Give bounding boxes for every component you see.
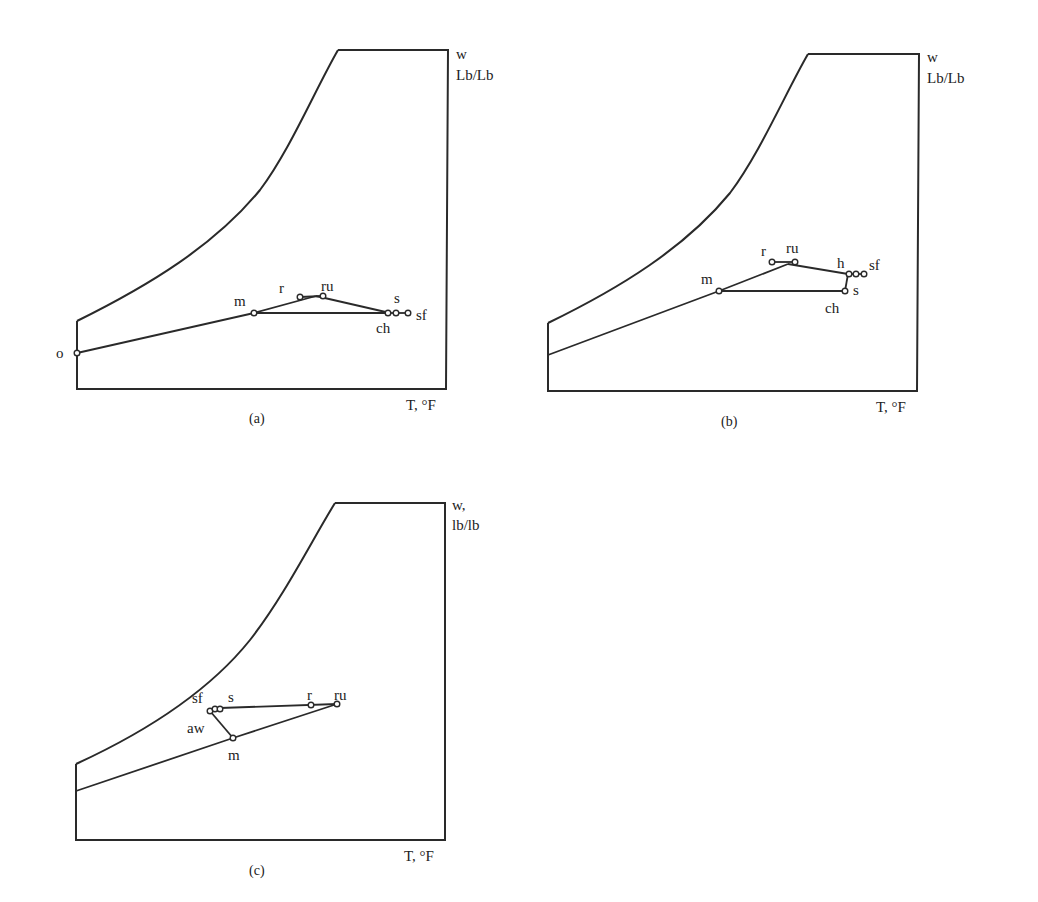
label-ru: ru bbox=[786, 240, 799, 256]
label-sf: sf bbox=[416, 307, 427, 323]
x-axis-label: T, °F bbox=[406, 397, 436, 413]
label-ch: ch bbox=[825, 300, 840, 316]
y-axis-label-w: w bbox=[927, 49, 938, 65]
y-axis-label-unit: Lb/Lb bbox=[456, 67, 494, 83]
chart-frame bbox=[77, 50, 448, 389]
label-s: s bbox=[853, 282, 859, 298]
y-axis-label-unit: lb/lb bbox=[452, 517, 480, 533]
panel-c: sf s r ru aw m w, lb/lb T, °F (c) bbox=[76, 497, 480, 879]
chart-frame bbox=[548, 54, 919, 391]
point-r bbox=[308, 702, 314, 708]
label-s: s bbox=[394, 290, 400, 306]
point-s bbox=[393, 310, 399, 316]
label-sf: sf bbox=[869, 257, 880, 273]
label-r: r bbox=[279, 280, 284, 296]
label-r: r bbox=[307, 687, 312, 703]
point-sf bbox=[405, 310, 411, 316]
panel-caption: (a) bbox=[249, 411, 265, 427]
point-labels: o m r ru s ch sf bbox=[56, 278, 427, 361]
point-m bbox=[251, 310, 257, 316]
label-m: m bbox=[701, 271, 713, 287]
saturation-curve bbox=[548, 54, 808, 323]
x-axis-label: T, °F bbox=[404, 848, 434, 864]
label-s: s bbox=[228, 689, 234, 705]
point-sf bbox=[861, 271, 867, 277]
point-o bbox=[74, 350, 80, 356]
label-ru: ru bbox=[334, 687, 347, 703]
point-labels: m r ru h sf s ch bbox=[701, 240, 880, 316]
y-axis-label-w: w bbox=[456, 46, 467, 62]
label-ch: ch bbox=[376, 320, 391, 336]
point-s bbox=[217, 706, 223, 712]
x-axis-label: T, °F bbox=[876, 399, 906, 415]
panel-b: m r ru h sf s ch w Lb/Lb T, °F (b) bbox=[548, 49, 965, 430]
saturation-curve bbox=[77, 50, 338, 321]
panel-a: o m r ru s ch sf w Lb/Lb T, °F (a) bbox=[56, 46, 494, 427]
point-ru bbox=[792, 259, 798, 265]
y-axis-label-unit: Lb/Lb bbox=[927, 70, 965, 86]
panel-caption: (c) bbox=[249, 863, 265, 879]
point-ch bbox=[385, 310, 391, 316]
point-m bbox=[230, 735, 236, 741]
label-m: m bbox=[234, 293, 246, 309]
label-h: h bbox=[837, 255, 845, 271]
label-r: r bbox=[761, 243, 766, 259]
point-labels: sf s r ru aw m bbox=[187, 687, 347, 763]
point-sf-1 bbox=[853, 271, 859, 277]
point-ru bbox=[320, 293, 326, 299]
point-m bbox=[716, 288, 722, 294]
process-lines bbox=[76, 704, 337, 791]
point-r bbox=[297, 294, 303, 300]
panel-caption: (b) bbox=[721, 414, 738, 430]
chart-frame bbox=[76, 503, 445, 840]
point-h bbox=[846, 271, 852, 277]
y-axis-label-w: w, bbox=[452, 497, 466, 513]
saturation-curve bbox=[76, 503, 335, 764]
label-o: o bbox=[56, 345, 64, 361]
label-sf: sf bbox=[192, 690, 203, 706]
psychrometric-figure: o m r ru s ch sf w Lb/Lb T, °F (a) bbox=[0, 0, 1038, 902]
label-ru: ru bbox=[321, 278, 334, 294]
label-aw: aw bbox=[187, 720, 205, 736]
point-ch bbox=[842, 288, 848, 294]
label-m: m bbox=[228, 747, 240, 763]
point-r bbox=[769, 259, 775, 265]
